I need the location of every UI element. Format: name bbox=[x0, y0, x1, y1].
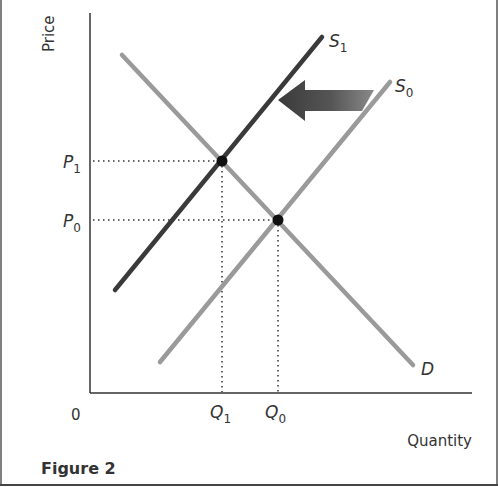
x-axis-label: Quantity bbox=[407, 432, 472, 450]
equilibrium-point-e0 bbox=[273, 215, 284, 226]
figure-caption: Figure 2 bbox=[41, 459, 116, 478]
p1-label: P1 bbox=[63, 152, 81, 176]
d-label: D bbox=[421, 359, 434, 379]
origin-label: 0 bbox=[71, 406, 81, 424]
q1-label: Q1 bbox=[210, 402, 231, 426]
s0-label: S0 bbox=[395, 76, 413, 100]
figure-2: Price Quantity 0 S1 S0 D P1 P0 Q1 Q0 Fig… bbox=[0, 0, 498, 487]
y-axis-label: Price bbox=[40, 15, 58, 52]
s1-label: S1 bbox=[329, 31, 347, 55]
equilibrium-point-e1 bbox=[217, 156, 228, 167]
shift-left-arrow-icon bbox=[278, 80, 374, 121]
p0-label: P0 bbox=[63, 211, 81, 235]
q0-label: Q0 bbox=[265, 402, 286, 426]
